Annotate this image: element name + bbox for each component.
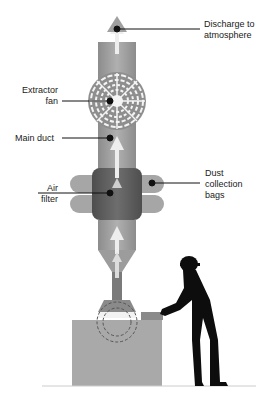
- label-extractor-line2: fan: [10, 96, 58, 107]
- label-discharge-line1: Discharge to: [204, 19, 255, 30]
- label-extractor-line1: Extractor: [10, 85, 58, 96]
- worker-silhouette: [160, 256, 228, 386]
- label-dust-line1: Dust: [205, 168, 243, 179]
- label-air-line1: Air: [10, 183, 58, 194]
- label-dust-line3: bags: [205, 190, 243, 201]
- label-air-filter: Air filter: [10, 183, 58, 205]
- extraction-hood: [98, 300, 136, 312]
- label-air-line2: filter: [10, 194, 58, 205]
- label-main-duct: Main duct: [15, 133, 54, 144]
- label-dust-line2: collection: [205, 179, 243, 190]
- label-discharge-line2: atmosphere: [204, 30, 255, 41]
- workbench: [72, 320, 162, 386]
- label-main-duct-text: Main duct: [15, 133, 54, 144]
- label-discharge: Discharge to atmosphere: [204, 19, 255, 41]
- label-dust-collection-bags: Dust collection bags: [205, 168, 243, 201]
- workpiece: [141, 312, 163, 320]
- label-extractor-fan: Extractor fan: [10, 85, 58, 107]
